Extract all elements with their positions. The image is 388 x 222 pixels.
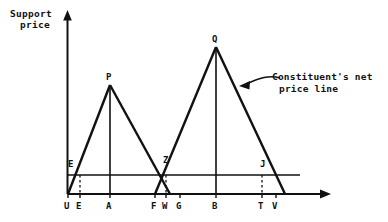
x-tick-label-v: V <box>272 201 277 211</box>
figure-canvas: Support price P Q E Z J Constituent's ne… <box>0 0 388 222</box>
point-label-z: Z <box>163 155 168 165</box>
tent-two <box>155 47 285 194</box>
point-label-e: E <box>68 159 73 169</box>
point-label-j: J <box>260 159 265 169</box>
diagram-svg <box>0 0 388 222</box>
peak-label-p: P <box>106 72 111 82</box>
x-tick-label-f: F <box>151 201 156 211</box>
x-tick-label-e: E <box>76 201 81 211</box>
x-tick-label-g: G <box>176 201 181 211</box>
x-tick-label-a: A <box>106 201 111 211</box>
x-tick-label-b: B <box>212 201 217 211</box>
x-tick-label-u: U <box>64 201 69 211</box>
x-tick-label-t: T <box>258 201 263 211</box>
peak-label-q: Q <box>212 34 217 44</box>
tent-one <box>68 85 170 194</box>
annotation-line1: Constituent's net <box>272 72 373 83</box>
x-axis <box>68 190 332 199</box>
y-axis-label-line2: price <box>20 20 50 31</box>
annotation-line2: price line <box>279 84 338 95</box>
x-tick-label-w: W <box>162 201 167 211</box>
